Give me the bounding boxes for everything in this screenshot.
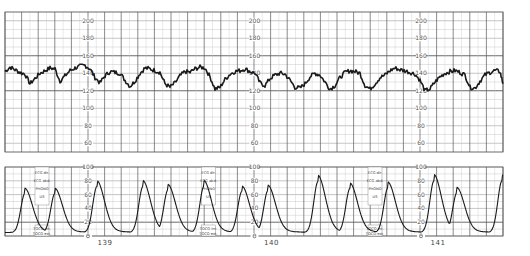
- svg-text:60: 60: [251, 139, 259, 146]
- svg-text:ECG abd.: ECG abd.: [200, 179, 217, 183]
- svg-text:200: 200: [82, 17, 94, 24]
- svg-text:ECG dir.: ECG dir.: [35, 171, 49, 175]
- svg-text:80: 80: [84, 122, 92, 129]
- svg-text:160: 160: [249, 52, 261, 59]
- svg-text:TOCO ext.: TOCO ext.: [365, 232, 384, 236]
- page-numbers: 139140141: [87, 235, 446, 247]
- svg-text:40: 40: [251, 204, 259, 211]
- svg-text:80: 80: [417, 177, 425, 184]
- svg-text:141: 141: [431, 239, 446, 247]
- svg-text:100: 100: [82, 163, 94, 170]
- svg-text:160: 160: [415, 52, 427, 59]
- svg-text:140: 140: [415, 69, 427, 76]
- svg-text:80: 80: [251, 177, 259, 184]
- svg-text:TOCO int.: TOCO int.: [199, 227, 217, 231]
- ctg-strip: 2001801601401201008060200180160140120100…: [0, 0, 530, 256]
- svg-text:80: 80: [417, 122, 425, 129]
- svg-text:US: US: [373, 195, 379, 199]
- svg-text:TOCO ext.: TOCO ext.: [198, 232, 217, 236]
- svg-text:100: 100: [249, 163, 261, 170]
- svg-text:80: 80: [251, 122, 259, 129]
- svg-text:120: 120: [249, 87, 261, 94]
- svg-text:40: 40: [84, 204, 92, 211]
- svg-text:200: 200: [415, 17, 427, 24]
- svg-text:ECG dir.: ECG dir.: [368, 171, 382, 175]
- svg-text:ECG abd.: ECG abd.: [367, 179, 384, 183]
- svg-text:20: 20: [417, 218, 425, 225]
- svg-text:200: 200: [249, 17, 261, 24]
- svg-text:60: 60: [84, 139, 92, 146]
- svg-text:100: 100: [415, 163, 427, 170]
- svg-text:100: 100: [82, 104, 94, 111]
- svg-text:ECG dir.: ECG dir.: [201, 171, 215, 175]
- svg-text:180: 180: [249, 34, 261, 41]
- svg-text:180: 180: [415, 34, 427, 41]
- svg-text:TOCO ext.: TOCO ext.: [32, 232, 51, 236]
- svg-text:60: 60: [84, 191, 92, 198]
- fhr-grid: [5, 12, 503, 152]
- svg-text:100: 100: [415, 104, 427, 111]
- svg-text:160: 160: [82, 52, 94, 59]
- svg-text:139: 139: [98, 239, 113, 247]
- fhr-scale-labels: 2001801601401201008060200180160140120100…: [82, 17, 427, 147]
- svg-text:ECG abd.: ECG abd.: [34, 179, 51, 183]
- svg-text:PHONO: PHONO: [35, 187, 48, 191]
- svg-text:60: 60: [417, 191, 425, 198]
- svg-text:PHONO: PHONO: [368, 187, 381, 191]
- svg-text:60: 60: [251, 191, 259, 198]
- svg-text:US: US: [40, 195, 46, 199]
- svg-text:80: 80: [84, 177, 92, 184]
- svg-text:180: 180: [82, 34, 94, 41]
- svg-text:120: 120: [82, 87, 94, 94]
- svg-text:60: 60: [417, 139, 425, 146]
- svg-text:40: 40: [417, 204, 425, 211]
- svg-text:140: 140: [264, 239, 279, 247]
- svg-text:120: 120: [415, 87, 427, 94]
- svg-text:100: 100: [249, 104, 261, 111]
